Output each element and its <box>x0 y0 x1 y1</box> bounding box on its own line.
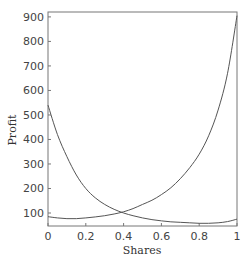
plot-frame <box>48 12 237 226</box>
x-tick-label: 0 <box>45 230 52 243</box>
line-chart: 100200300400500600700800900 00.20.40.60.… <box>0 0 252 265</box>
x-tick-label: 0.2 <box>77 230 95 243</box>
y-tick-label: 300 <box>23 158 44 171</box>
x-axis-label: Shares <box>123 244 162 257</box>
x-tick-label: 0.6 <box>153 230 171 243</box>
y-axis-ticks: 100200300400500600700800900 <box>23 11 51 220</box>
series-line <box>48 16 237 219</box>
y-tick-label: 800 <box>23 35 44 48</box>
y-axis-label: Profit <box>6 114 19 146</box>
y-tick-label: 900 <box>23 11 44 24</box>
series-line <box>48 105 237 223</box>
y-tick-label: 700 <box>23 60 44 73</box>
x-tick-label: 1 <box>234 230 241 243</box>
x-tick-label: 0.4 <box>115 230 133 243</box>
y-tick-label: 400 <box>23 133 44 146</box>
y-tick-label: 200 <box>23 182 44 195</box>
y-tick-label: 500 <box>23 109 44 122</box>
y-tick-label: 100 <box>23 207 44 220</box>
x-tick-label: 0.8 <box>190 230 208 243</box>
y-tick-label: 600 <box>23 84 44 97</box>
series-lines <box>48 16 237 224</box>
